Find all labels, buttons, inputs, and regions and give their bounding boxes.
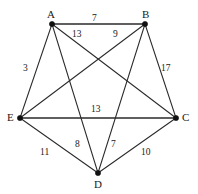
- edge-weight-A-D: 8: [75, 140, 80, 150]
- vertex-label-E: E: [7, 112, 14, 123]
- vertex-label-B: B: [142, 9, 149, 20]
- edge-weight-B-E: 9: [113, 30, 118, 40]
- edge-D-E: [20, 118, 98, 173]
- edge-B-D: [98, 24, 145, 173]
- graph-canvas: [0, 0, 198, 194]
- graph-diagram: A B C D E 7 13 9 3 17 13 8 7 11 10: [0, 0, 198, 194]
- edge-weight-A-C: 13: [72, 30, 82, 40]
- edge-C-D: [98, 118, 176, 173]
- vertex-dot-A: [49, 21, 54, 26]
- edge-weight-E-D: 11: [40, 148, 49, 158]
- vertex-label-C: C: [182, 112, 189, 123]
- edge-weight-B-C: 17: [161, 64, 171, 74]
- vertex-dot-C: [173, 115, 178, 120]
- vertex-label-A: A: [47, 9, 55, 20]
- edge-weight-A-B: 7: [92, 14, 97, 24]
- edge-weight-B-D: 7: [111, 140, 116, 150]
- edge-weight-E-C: 13: [91, 105, 101, 115]
- vertex-dot-E: [17, 115, 22, 120]
- edge-weight-C-D: 10: [141, 148, 151, 158]
- vertex-label-D: D: [94, 179, 102, 190]
- edge-B-E: [20, 24, 145, 118]
- vertex-dot-D: [95, 170, 100, 175]
- edge-weight-A-E: 3: [23, 64, 28, 74]
- edge-A-D: [52, 24, 98, 173]
- vertex-dot-B: [142, 21, 147, 26]
